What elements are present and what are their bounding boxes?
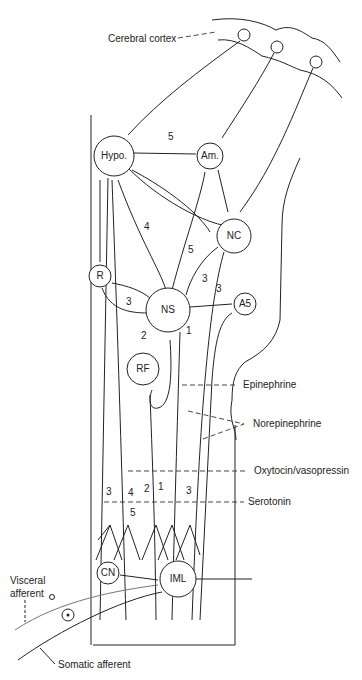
ns-to-a5 <box>190 304 232 307</box>
epinephrine-label: Epinephrine <box>243 379 297 390</box>
ns-label: NS <box>161 304 175 315</box>
nc-down <box>192 252 224 620</box>
pathway-2-label: 2 <box>141 330 147 341</box>
cortex-to-hypo-axon <box>128 41 240 135</box>
norepinephrine-label: Norepinephrine <box>253 418 322 429</box>
cortex-to-nc-axon <box>240 68 313 212</box>
pathway-3-a5-label: 3 <box>216 283 222 294</box>
somatic-afferent-label: Somatic afferent <box>58 659 131 670</box>
a5-down <box>200 313 232 620</box>
pathway-4-label: 4 <box>144 221 150 232</box>
col-1-label: 1 <box>158 481 164 492</box>
col-5-label: 5 <box>130 507 136 518</box>
visceral-afferent-label-1: Visceral <box>10 575 45 586</box>
cerebral-cortex-label: Cerebral cortex <box>108 33 176 44</box>
hypo-am-connection <box>133 153 196 154</box>
pathway-5-label: 5 <box>168 131 174 142</box>
hypo-to-ns <box>118 180 166 290</box>
col-4-label: 4 <box>128 487 134 498</box>
cn-label: CN <box>101 567 115 578</box>
pathway-1-label: 1 <box>186 325 192 336</box>
visceral-ganglion-cell <box>50 595 55 600</box>
hypo-down-line <box>100 178 108 620</box>
hypothalamus-label: Hypo. <box>101 150 127 161</box>
ns-to-am <box>172 172 205 290</box>
pathway-3-r-label: 3 <box>126 296 132 307</box>
spinal-cord-box <box>93 425 235 645</box>
cortex-leader <box>178 32 216 38</box>
serotonin-label: Serotonin <box>248 496 291 507</box>
nc-label: NC <box>227 230 241 241</box>
oxytocin-vasopressin-label: Oxytocin/vasopressin <box>254 465 349 476</box>
am-to-nc <box>218 170 228 212</box>
amygdala-label: Am. <box>201 150 219 161</box>
cn-to-iml <box>120 575 158 580</box>
col-3-right-label: 3 <box>186 485 192 496</box>
pathway-3-nc-label: 3 <box>202 273 208 284</box>
hypo-down-line-2 <box>112 180 126 620</box>
norepinephrine-leader-1 <box>188 411 244 424</box>
r-label: R <box>96 270 103 281</box>
somatic-afferent-leader <box>40 648 55 664</box>
rf-label: RF <box>136 363 149 374</box>
cortex-neuron-2 <box>271 41 283 53</box>
visceral-afferent-label-2: afferent <box>10 588 44 599</box>
cortex-to-am-axon <box>222 53 274 138</box>
drg-nucleus <box>67 614 70 617</box>
somatic-afferent-fiber <box>18 592 162 660</box>
cortex-neuron-3 <box>310 56 322 68</box>
col-3-left-label: 3 <box>106 486 112 497</box>
terminal-branches <box>96 525 200 560</box>
col-2-label: 2 <box>144 483 150 494</box>
pathway-5b-label: 5 <box>188 244 194 255</box>
a5-label: A5 <box>239 298 252 309</box>
iml-label: IML <box>170 573 187 584</box>
autonomic-pathways-diagram: Cerebral cortex 5 4 5 3 3 3 2 1 Epinephr… <box>0 0 362 680</box>
cortex-neuron-1 <box>238 29 250 41</box>
